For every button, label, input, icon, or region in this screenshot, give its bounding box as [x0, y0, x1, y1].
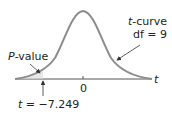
svg-text:t-curve: t-curve — [128, 15, 167, 28]
zero-label: 0 — [80, 82, 87, 95]
t-stat-label: t = −7.249 — [18, 98, 79, 111]
df-label: df = 9 — [133, 28, 167, 41]
curve-arrow — [117, 45, 140, 60]
p-value-arrow — [30, 64, 40, 73]
axis-label-t: t — [154, 73, 159, 86]
t-curve-diagram: t-curve df = 9 P-value t 0 t = −7.249 — [0, 0, 172, 115]
p-value-label: P-value — [8, 50, 49, 63]
